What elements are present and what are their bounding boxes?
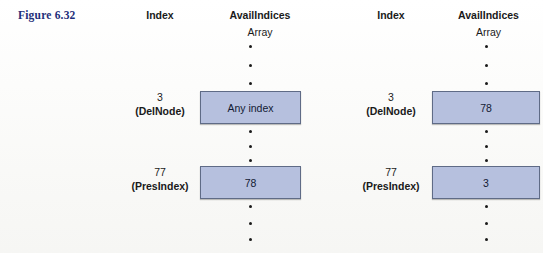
ellipsis-dot — [249, 45, 252, 48]
figure-diagram: Figure 6.32 Index AvailIndices Array 3 (… — [0, 0, 543, 253]
ellipsis-dot — [249, 222, 252, 225]
index-name: (DelNode) — [348, 104, 434, 118]
ellipsis-dot — [485, 145, 488, 148]
ellipsis-dot — [485, 64, 488, 67]
ellipsis-dot — [249, 205, 252, 208]
ellipsis-dot — [249, 159, 252, 162]
index-label-presindex: 77 (PresIndex) — [348, 165, 434, 193]
index-number: 3 — [348, 90, 434, 104]
ellipsis-dot — [485, 159, 488, 162]
ellipsis-dot — [249, 64, 252, 67]
ellipsis-top — [200, 45, 301, 85]
ellipsis-dot — [485, 130, 488, 133]
column-header-index: Index — [118, 9, 202, 21]
ellipsis-dot — [249, 145, 252, 148]
index-label-delnode: 3 (DelNode) — [118, 90, 202, 118]
index-name: (PresIndex) — [118, 179, 202, 193]
column-header-availindices: AvailIndices — [434, 9, 543, 21]
index-number: 77 — [118, 165, 202, 179]
ellipsis-dot — [249, 238, 252, 241]
ellipsis-middle — [432, 130, 540, 162]
ellipsis-dot — [485, 82, 488, 85]
column-header-array: Array — [434, 26, 543, 38]
ellipsis-dot — [249, 82, 252, 85]
index-name: (PresIndex) — [348, 179, 434, 193]
column-header-array: Array — [202, 26, 318, 38]
panel-before: Index AvailIndices Array 3 (DelNode) Any… — [118, 0, 318, 253]
ellipsis-dot — [249, 130, 252, 133]
array-cell-presindex: 3 — [432, 166, 540, 199]
ellipsis-dot — [485, 238, 488, 241]
figure-caption-label: Figure 6.32 — [18, 9, 76, 21]
ellipsis-dot — [485, 45, 488, 48]
ellipsis-bottom — [432, 205, 540, 241]
index-name: (DelNode) — [118, 104, 202, 118]
ellipsis-bottom — [200, 205, 301, 241]
index-number: 77 — [348, 165, 434, 179]
array-cell-delnode: 78 — [432, 91, 540, 124]
index-label-presindex: 77 (PresIndex) — [118, 165, 202, 193]
index-label-delnode: 3 (DelNode) — [348, 90, 434, 118]
ellipsis-dot — [485, 222, 488, 225]
column-header-availindices: AvailIndices — [202, 9, 318, 21]
ellipsis-middle — [200, 130, 301, 162]
column-header-index: Index — [348, 9, 434, 21]
ellipsis-dot — [485, 205, 488, 208]
ellipsis-top — [432, 45, 540, 85]
index-number: 3 — [118, 90, 202, 104]
array-cell-delnode: Any index — [200, 91, 301, 124]
array-cell-presindex: 78 — [200, 166, 301, 199]
panel-after: Index AvailIndices Array 3 (DelNode) 78 … — [348, 0, 543, 253]
